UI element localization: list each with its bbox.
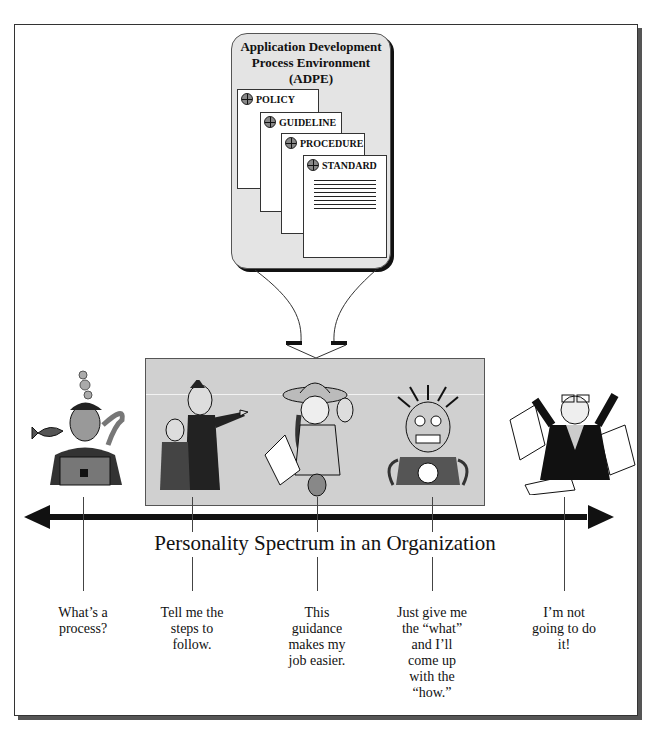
caption-line: guidance	[267, 621, 367, 637]
tick-line-2-upper	[192, 497, 193, 532]
caption-line: the “what”	[382, 621, 482, 637]
caption-line: follow.	[142, 637, 242, 653]
caption-line: What’s a	[33, 605, 133, 621]
spectrum-title: Personality Spectrum in an Organization	[0, 531, 650, 556]
figure-diver-with-fish	[30, 365, 130, 495]
caption-line: job easier.	[267, 653, 367, 669]
caption-line: Just give me	[382, 605, 482, 621]
figure-frazzled-wired-person	[378, 385, 478, 495]
caption-line: Tell me the	[142, 605, 242, 621]
tick-line-3-upper	[317, 497, 318, 532]
caption-guidance-easier: This guidance makes my job easier.	[267, 605, 367, 669]
tick-line-5	[564, 497, 565, 591]
caption-what-is-a-process: What’s a process?	[33, 605, 133, 637]
caption-line: makes my	[267, 637, 367, 653]
tick-line-4-lower	[432, 557, 433, 591]
tick-line-4-upper	[432, 497, 433, 532]
caption-give-me-what: Just give me the “what” and I’ll come up…	[382, 605, 482, 701]
caption-line: steps to	[142, 621, 242, 637]
caption-line: I’m not	[514, 605, 614, 621]
tick-line-3-lower	[317, 557, 318, 591]
caption-line: and I’ll	[382, 637, 482, 653]
caption-line: process?	[33, 621, 133, 637]
caption-line: This	[267, 605, 367, 621]
figure-pointing-manager-with-assistant	[150, 380, 250, 495]
tick-line-2-lower	[192, 557, 193, 591]
spectrum-arrow	[0, 500, 650, 534]
caption-tell-me-steps: Tell me the steps to follow.	[142, 605, 242, 653]
caption-line: with the	[382, 669, 482, 685]
caption-line: going to do	[514, 621, 614, 637]
figure-angry-paper-thrower	[500, 380, 640, 495]
figure-happy-explorer-with-papers	[255, 375, 385, 500]
tick-line-1	[83, 497, 84, 591]
caption-not-going-to-do-it: I’m not going to do it!	[514, 605, 614, 653]
caption-line: come up	[382, 653, 482, 669]
caption-line: “how.”	[382, 685, 482, 701]
caption-line: it!	[514, 637, 614, 653]
